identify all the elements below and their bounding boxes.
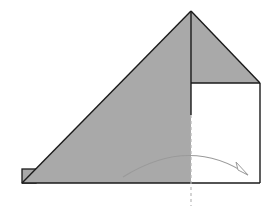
origami-diagram [0, 0, 274, 212]
white-square-flap [191, 83, 260, 183]
